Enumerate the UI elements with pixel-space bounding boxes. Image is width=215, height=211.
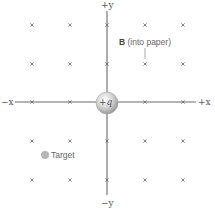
magnetic-field-label: B (into paper) bbox=[119, 38, 171, 47]
field-into-page-x-icon bbox=[181, 62, 184, 65]
field-into-page-x-icon bbox=[181, 139, 184, 142]
neg-y-label: −y bbox=[101, 199, 114, 208]
pos-y-label: +y bbox=[101, 1, 114, 10]
magnetic-field-direction: (into paper) bbox=[128, 37, 171, 47]
field-into-page-x-icon bbox=[68, 178, 71, 181]
field-into-page-x-icon bbox=[68, 62, 71, 65]
field-into-page-x-icon bbox=[143, 139, 146, 142]
field-into-page-x-icon bbox=[30, 62, 33, 65]
field-into-page-x-icon bbox=[68, 23, 71, 26]
field-into-page-x-icon bbox=[143, 62, 146, 65]
field-into-page-x-icon bbox=[30, 178, 33, 181]
field-into-page-x-icon bbox=[68, 139, 71, 142]
field-into-page-x-icon bbox=[30, 139, 33, 142]
field-into-page-x-icon bbox=[181, 23, 184, 26]
target-dot-icon bbox=[41, 151, 49, 159]
magnetic-field-symbol: B bbox=[119, 37, 125, 47]
field-into-page-x-icon bbox=[181, 178, 184, 181]
field-into-page-x-icon bbox=[143, 178, 146, 181]
charge-label: +q bbox=[99, 98, 112, 107]
field-into-page-x-icon bbox=[143, 23, 146, 26]
field-into-page-x-icon bbox=[30, 23, 33, 26]
magnetic-field-diagram: +y −y −x +x B (into paper) +q Target bbox=[0, 0, 215, 211]
neg-x-label: −x bbox=[1, 98, 14, 107]
target-label: Target bbox=[51, 151, 75, 160]
pos-x-label: +x bbox=[198, 98, 211, 107]
